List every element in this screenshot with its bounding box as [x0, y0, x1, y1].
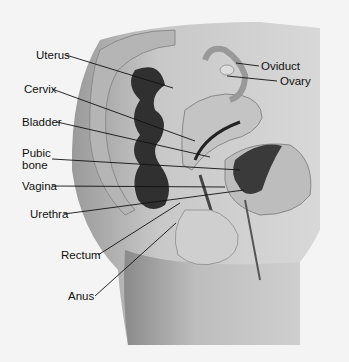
label-uterus: Uterus	[36, 49, 70, 61]
label-vagina: Vagina	[22, 180, 57, 192]
label-urethra: Urethra	[30, 208, 68, 220]
label-oviduct: Oviduct	[261, 60, 300, 72]
label-bladder: Bladder	[22, 116, 62, 128]
label-pubic-bone-line1: Pubic	[22, 147, 51, 159]
label-rectum: Rectum	[61, 249, 101, 261]
label-anus: Anus	[68, 290, 94, 302]
label-ovary: Ovary	[280, 75, 311, 87]
label-pubic-bone-line2: bone	[22, 159, 48, 171]
label-cervix: Cervix	[24, 83, 57, 95]
ovary-shape	[220, 65, 234, 75]
